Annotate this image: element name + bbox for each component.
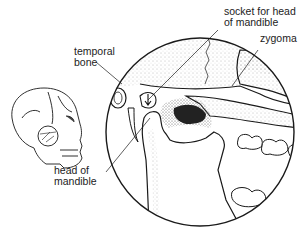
tmj-illustration: [0, 0, 302, 239]
label-head-of-mandible: head of mandible: [54, 165, 97, 187]
magnified-joint-view: [100, 30, 302, 239]
skull-icon: [12, 88, 82, 168]
label-zygoma: zygoma: [260, 33, 297, 44]
label-socket-for-head-of-mandible: socket for head of mandible: [224, 6, 296, 28]
label-temporal-bone: temporal bone: [74, 46, 115, 68]
